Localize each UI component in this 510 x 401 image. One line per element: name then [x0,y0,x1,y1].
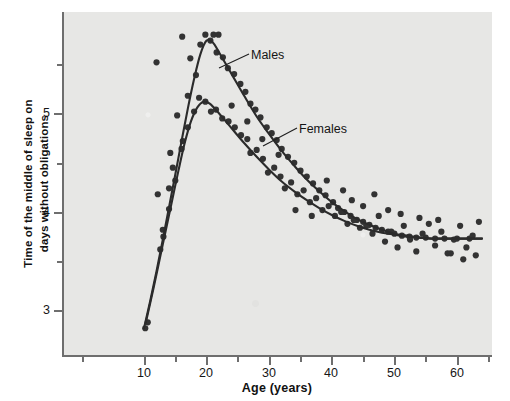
data-point-females [473,252,479,258]
data-point-females [288,179,294,185]
data-point-males [174,112,180,118]
data-point-extra [179,34,185,40]
data-point-females [432,242,438,248]
data-point-extra [309,213,315,219]
data-point-extra [460,256,466,262]
data-point-females [426,221,432,227]
data-point-females [419,231,425,237]
data-point-extra [360,203,366,209]
data-point-extra [229,103,235,109]
data-point-extra [385,207,391,213]
data-point-males [187,55,193,61]
data-point-males [202,32,208,38]
data-point-extra [398,211,404,217]
data-point-females [326,203,332,209]
data-point-extra [416,215,422,221]
data-point-females [167,150,173,156]
data-point-extra [435,217,441,223]
data-point-females [301,187,307,193]
data-point-females [463,244,469,250]
scatter-points-layer [142,32,482,332]
data-point-females [413,248,419,254]
data-point-extra [244,118,250,124]
data-point-females [271,165,277,171]
data-point-extra [349,197,355,203]
data-point-females [254,147,260,153]
data-point-extra [292,207,298,213]
data-point-females [401,223,407,229]
data-point-females [244,136,250,142]
data-point-extra [259,136,265,142]
data-point-females [376,213,382,219]
data-point-extra [476,219,482,225]
data-point-females [457,223,463,229]
data-point-males [170,165,176,171]
data-point-extra [324,177,330,183]
data-point-extra [215,32,221,38]
figure-container: 5 4 3 10 20 30 40 50 60 Time of the midd… [0,0,510,401]
data-point-extra [448,250,454,256]
data-point-females [438,229,444,235]
data-point-extra [275,152,281,158]
plot-svg [0,0,510,401]
leader-line-females [263,128,297,146]
data-point-extra [371,191,377,197]
data-point-extra [340,187,346,193]
data-point-females [155,191,161,197]
data-point-females [382,238,388,244]
data-point-females [313,195,319,201]
data-point-females [394,244,400,250]
data-point-extra [153,59,159,65]
fitted-curve-females [146,101,482,322]
data-point-females [196,95,202,101]
